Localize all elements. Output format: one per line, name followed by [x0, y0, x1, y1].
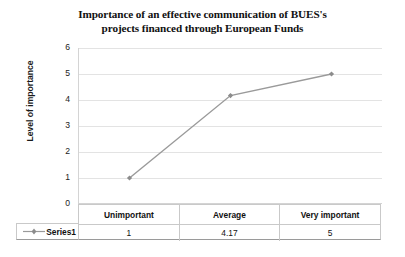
data-table: Unimportant Average Very important 1 4.1…	[78, 204, 381, 240]
chart-title-line-1: Importance of an effective communication…	[40, 7, 365, 21]
table-value-very-important: 5	[280, 225, 380, 242]
y-tick-label-5: 5	[40, 69, 70, 78]
legend-line-marker-icon	[23, 227, 45, 236]
series-polyline	[130, 74, 332, 178]
table-value-row: 1 4.17 5	[79, 225, 380, 242]
table-value-unimportant: 1	[79, 225, 179, 242]
table-header-unimportant: Unimportant	[79, 205, 179, 225]
series-line-series1	[79, 48, 382, 204]
chart-figure: Importance of an effective communication…	[0, 0, 405, 257]
table-header-average: Average	[179, 205, 279, 225]
y-tick-label-4: 4	[40, 95, 70, 104]
table-value-average: 4.17	[179, 225, 279, 242]
y-axis-title: Level of importance	[25, 46, 35, 156]
series-markers	[127, 71, 334, 180]
chart-title-line-2: projects financed through European Funds	[40, 21, 365, 35]
legend-key-series1: Series1	[16, 223, 78, 240]
y-tick-label-1: 1	[40, 173, 70, 182]
table-header-very-important: Very important	[280, 205, 380, 225]
chart-title: Importance of an effective communication…	[40, 7, 365, 35]
y-tick-label-6: 6	[40, 43, 70, 52]
y-tick-label-0: 0	[40, 199, 70, 208]
y-tick-label-2: 2	[40, 147, 70, 156]
table-header-row: Unimportant Average Very important	[79, 205, 380, 225]
y-tick-label-3: 3	[40, 121, 70, 130]
legend-label-series1: Series1	[45, 227, 76, 237]
plot-area	[78, 48, 381, 204]
data-point-2	[329, 71, 334, 76]
